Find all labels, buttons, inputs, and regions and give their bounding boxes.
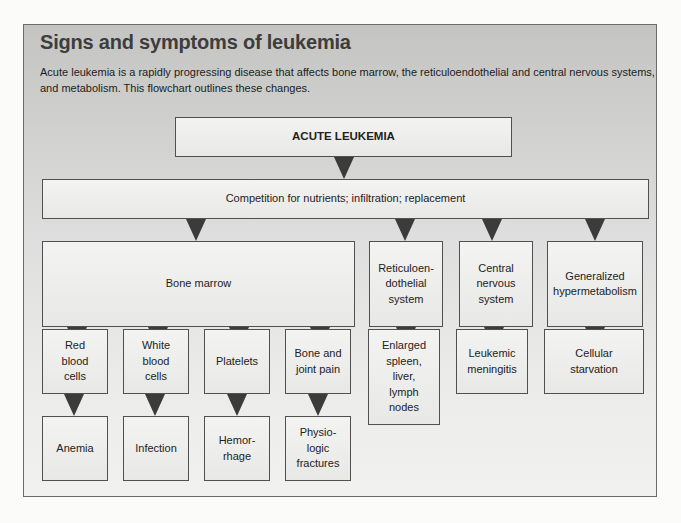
arrow-down-icon xyxy=(227,394,247,416)
node-label: Bone and joint pain xyxy=(290,346,346,377)
node-white-blood-cells: White blood cells xyxy=(123,329,189,394)
node-leukemic-meningitis: Leukemic meningitis xyxy=(456,329,528,394)
node-red-blood-cells: Red blood cells xyxy=(42,329,108,394)
node-label: Red blood cells xyxy=(57,338,93,385)
node-infection: Infection xyxy=(123,416,189,481)
node-label: Hemor-rhage xyxy=(217,433,257,464)
node-platelets: Platelets xyxy=(204,329,270,394)
arrow-down-icon xyxy=(334,157,354,179)
node-enlarged-organs: Enlarged spleen, liver, lymph nodes xyxy=(368,329,440,425)
node-cellular-starvation: Cellular starvation xyxy=(544,329,644,394)
node-reticuloendothelial-system: Reticuloen-dothelial system xyxy=(369,241,443,327)
node-label: White blood cells xyxy=(138,338,174,385)
node-anemia: Anemia xyxy=(42,416,108,481)
arrow-down-icon xyxy=(585,219,605,241)
node-bone-and-joint-pain: Bone and joint pain xyxy=(285,329,351,394)
arrow-down-icon xyxy=(482,219,502,241)
node-label: Enlarged spleen, liver, lymph nodes xyxy=(381,338,427,416)
node-label: Leukemic meningitis xyxy=(464,346,520,377)
node-generalized-hypermetabolism: Generalized hypermetabolism xyxy=(547,241,643,327)
figure-intro-text: Acute leukemia is a rapidly progressing … xyxy=(40,64,656,96)
figure-title: Signs and symptoms of leukemia xyxy=(40,31,351,54)
node-central-nervous-system: Central nervous system xyxy=(459,241,533,327)
arrow-down-icon xyxy=(145,394,165,416)
node-label: Central nervous system xyxy=(468,261,524,308)
node-label: Generalized hypermetabolism xyxy=(552,269,638,300)
node-mechanism: Competition for nutrients; infiltration;… xyxy=(42,179,649,219)
node-acute-leukemia: ACUTE LEUKEMIA xyxy=(175,117,512,157)
arrow-down-icon xyxy=(186,219,206,241)
node-label: Cellular starvation xyxy=(564,346,624,377)
arrow-down-icon xyxy=(64,394,84,416)
node-label: Reticuloen-dothelial system xyxy=(376,261,436,308)
node-physiologic-fractures: Physio-logic fractures xyxy=(285,416,351,481)
arrow-down-icon xyxy=(308,394,328,416)
node-label: Physio-logic fractures xyxy=(295,425,341,472)
node-hemorrhage: Hemor-rhage xyxy=(204,416,270,481)
node-bone-marrow: Bone marrow xyxy=(42,241,355,327)
arrow-down-icon xyxy=(395,219,415,241)
